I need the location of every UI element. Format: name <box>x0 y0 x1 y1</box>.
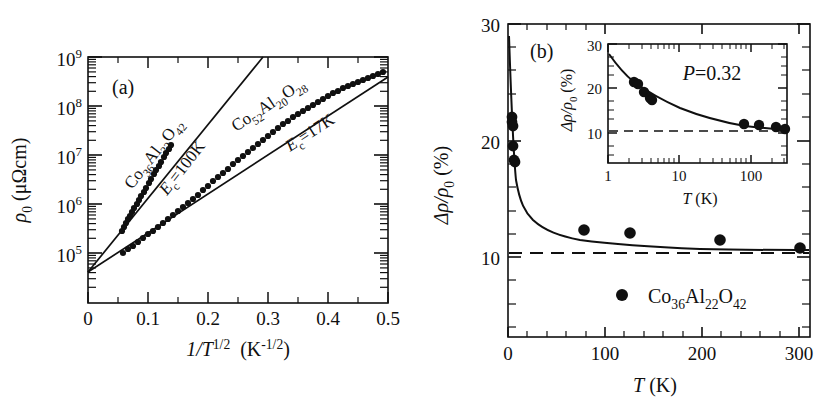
figure-svg: (a) <box>0 0 839 407</box>
panel-b-yaxis-unit: (%) <box>430 146 453 176</box>
panel-a: (a) <box>8 46 400 361</box>
inset-yaxis-label-main: Δρ/ρ <box>558 102 576 133</box>
panel-a-ytick-labels: 105 106 107 108 109 <box>57 46 83 266</box>
legend-marker-filled-circle-icon <box>616 289 628 301</box>
panel-b-ytick-10: 10 <box>481 248 500 269</box>
panel-b-inset: 1 10 100 T (K) <box>558 38 790 208</box>
panel-a-yaxis-label: ρ0 (μΩcm) <box>8 138 35 224</box>
panel-a-ytick-6: 106 <box>57 193 83 217</box>
panel-a-ytick-5: 105 <box>57 242 82 266</box>
panel-a-yaxis-label-main: ρ <box>8 213 31 224</box>
panel-a-yaxis-unit: (μΩcm) <box>8 138 31 201</box>
panel-a-xaxis-label: 1/T1/2 (K-1/2) <box>186 337 290 361</box>
panel-a-xtick-0: 0 <box>83 308 93 329</box>
panel-a-xtick-1: 0.1 <box>136 308 160 329</box>
panel-b-xaxis-label: T (K) <box>633 374 677 397</box>
inset-yaxis-unit: (%) <box>558 69 576 93</box>
panel-b-legend: Co36Al22O42 <box>616 285 747 312</box>
panel-b-legend-label: Co36Al22O42 <box>648 285 747 312</box>
panel-a-xaxis-label-main: 1/T <box>186 338 215 360</box>
inset-ytick-labels: 10 20 30 <box>587 38 602 142</box>
panel-b-xaxis-unit: (K) <box>649 374 677 397</box>
inset-ytick-20: 20 <box>587 81 602 97</box>
panel-b-yaxis-label: Δρ/ρ0 (%) <box>430 146 457 225</box>
panel-b-label: (b) <box>530 40 553 63</box>
inset-yaxis-label: Δρ/ρ0 (%) <box>558 69 579 133</box>
panel-a-ytick-7: 107 <box>57 144 83 168</box>
panel-b-yaxis-label-main: Δρ/ρ <box>430 188 453 226</box>
inset-ytick-30: 30 <box>587 38 602 54</box>
panel-b-xtick-1: 100 <box>591 343 620 364</box>
figure-container: (a) <box>0 0 839 407</box>
panel-b: (b) 0 <box>430 15 813 397</box>
panel-a-xtick-2: 0.2 <box>196 308 220 329</box>
panel-a-xaxis-unit: (K <box>240 338 262 361</box>
panel-b-xtick-2: 200 <box>688 343 717 364</box>
inset-annotation-value: =0.32 <box>695 62 741 84</box>
inset-annotation-symbol: P <box>682 62 695 84</box>
panel-a-label: (a) <box>112 76 134 99</box>
panel-a-xtick-5: 0.5 <box>376 308 400 329</box>
inset-xtick-1: 1 <box>604 168 612 184</box>
panel-a-xtick-labels: 0 0.1 0.2 0.3 0.4 0.5 <box>83 308 400 329</box>
panel-a-xaxis-label-exp: 1/2 <box>213 337 231 352</box>
panel-a-xtick-3: 0.3 <box>256 308 280 329</box>
panel-b-xtick-0: 0 <box>503 343 513 364</box>
inset-xaxis-label: T (K) <box>682 190 717 208</box>
panel-a-xaxis-unit-close: ) <box>283 338 290 361</box>
inset-xtick-100: 100 <box>740 168 763 184</box>
inset-annotation-P: P=0.32 <box>682 62 742 84</box>
panel-b-xtick-labels: 0 100 200 300 <box>503 343 813 364</box>
panel-a-ytick-9: 109 <box>57 46 82 70</box>
inset-xtick-10: 10 <box>672 168 687 184</box>
panel-b-ytick-20: 20 <box>481 132 500 153</box>
inset-xtick-labels: 1 10 100 <box>604 168 762 184</box>
panel-b-ytick-30: 30 <box>481 15 500 36</box>
panel-a-xaxis-unit-exp: -1/2 <box>261 337 283 352</box>
inset-xaxis-unit: (K) <box>695 190 717 208</box>
panel-b-ytick-labels: 10 20 30 <box>481 15 500 269</box>
panel-a-xtick-4: 0.4 <box>316 308 340 329</box>
panel-a-ytick-8: 108 <box>57 95 82 119</box>
inset-ytick-10: 10 <box>587 126 602 142</box>
panel-b-xtick-3: 300 <box>785 343 814 364</box>
